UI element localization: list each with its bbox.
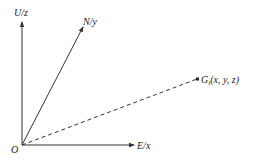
x-axis-label: E/x [136,140,151,151]
coordinate-diagram: U/z N/y E/x O Gi(x, y, z) [0,0,259,162]
z-axis-label: U/z [14,7,28,18]
dashed-position-vector [22,79,197,145]
point-marker [196,78,199,81]
origin-label: O [11,144,18,155]
point-label-coords: (x, y, z) [210,74,240,86]
y-axis-label: N/y [82,16,97,27]
point-label: Gi(x, y, z) [201,74,240,87]
point-label-main: G [201,74,208,85]
y-axis [22,27,83,145]
